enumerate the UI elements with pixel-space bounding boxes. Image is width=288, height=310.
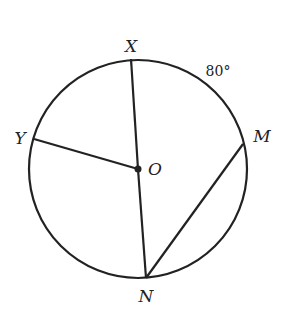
label-x: X	[123, 36, 138, 56]
label-n: N	[138, 286, 155, 306]
label-o: O	[148, 159, 162, 179]
label-m: M	[252, 126, 271, 146]
circle-diagram: X Y M N O 80°	[0, 0, 288, 310]
label-y: Y	[14, 128, 27, 148]
radius-on	[138, 169, 146, 278]
radius-oy	[34, 139, 138, 169]
arc-measure-label: 80°	[206, 63, 231, 79]
center-point-o	[135, 166, 142, 173]
radius-ox	[131, 59, 138, 169]
